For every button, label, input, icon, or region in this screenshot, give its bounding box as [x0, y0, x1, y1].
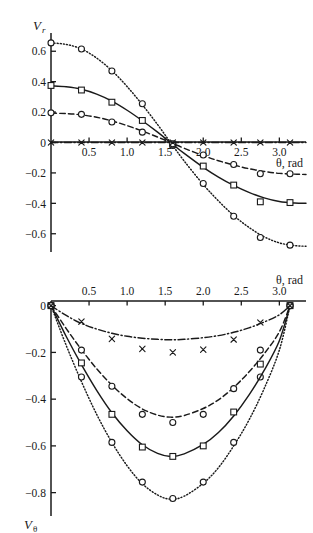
marker-circle	[139, 101, 145, 107]
y-tick-label: −0.6	[25, 440, 46, 452]
marker-circle	[139, 479, 145, 485]
x-tick-label: 0.5	[82, 146, 97, 158]
marker-circle	[109, 383, 115, 389]
x-tick-label: 0.5	[82, 285, 97, 297]
y-tick-label: −0.6	[25, 228, 46, 240]
marker-circle	[109, 68, 115, 74]
marker-circle	[78, 374, 84, 380]
y-axis-title-subscript: r	[42, 25, 46, 35]
marker-circle	[200, 181, 206, 187]
marker-circle	[200, 479, 206, 485]
marker-circle	[139, 411, 145, 417]
marker-circle	[78, 46, 84, 52]
figure-container: 0.51.01.52.02.53.00.60.40.20−0.2−0.4−0.6…	[0, 0, 313, 533]
y-axis-title-subscript: θ	[33, 524, 37, 533]
marker-circle	[170, 420, 176, 426]
x-tick-label: 2.5	[234, 285, 249, 297]
marker-square	[139, 444, 145, 450]
y-tick-label: −0.4	[25, 198, 46, 210]
y-tick-label: 0.4	[32, 76, 47, 88]
y-tick-label: 0	[40, 300, 46, 312]
marker-square	[79, 360, 85, 366]
x-tick-label: 1.0	[120, 285, 135, 297]
marker-circle	[139, 129, 145, 135]
marker-square	[109, 99, 115, 105]
y-tick-label: −0.2	[25, 167, 46, 179]
marker-circle	[78, 111, 84, 117]
marker-square	[170, 454, 176, 460]
marker-square	[48, 83, 54, 89]
marker-square	[231, 182, 237, 188]
marker-circle	[231, 213, 237, 219]
marker-circle	[200, 411, 206, 417]
marker-circle	[109, 439, 115, 445]
marker-circle	[170, 495, 176, 501]
marker-circle	[257, 235, 263, 241]
y-tick-label: 0	[40, 137, 46, 149]
marker-square	[200, 163, 206, 169]
marker-circle	[257, 347, 263, 353]
marker-square	[139, 118, 145, 124]
y-tick-label: 0.2	[32, 106, 47, 118]
y-tick-label: −0.4	[25, 393, 46, 405]
figure-canvas: 0.51.01.52.02.53.00.60.40.20−0.2−0.4−0.6…	[0, 0, 313, 533]
x-tick-label: 1.0	[120, 146, 135, 158]
marker-circle	[48, 40, 54, 46]
marker-square	[231, 409, 237, 415]
marker-square	[287, 200, 293, 206]
marker-circle	[287, 242, 293, 248]
marker-circle	[257, 171, 263, 177]
marker-circle	[200, 152, 206, 158]
marker-circle	[287, 171, 293, 177]
x-tick-label: 2.0	[196, 285, 211, 297]
x-tick-label: 2.5	[234, 146, 249, 158]
marker-square	[257, 199, 263, 205]
marker-circle	[170, 141, 176, 147]
marker-square	[79, 87, 85, 93]
marker-square	[200, 443, 206, 449]
x-tick-label: 1.5	[158, 285, 173, 297]
marker-square	[109, 411, 115, 417]
y-tick-label: −0.8	[25, 487, 46, 499]
x-axis-title: θ, rad	[276, 156, 303, 170]
marker-circle	[48, 110, 54, 116]
marker-circle	[78, 347, 84, 353]
marker-circle	[231, 162, 237, 168]
y-tick-label: 0.6	[32, 45, 47, 57]
marker-circle	[231, 439, 237, 445]
marker-circle	[231, 386, 237, 392]
marker-circle	[109, 119, 115, 125]
x-axis-title: θ, rad	[276, 273, 303, 287]
y-tick-label: −0.2	[25, 347, 46, 359]
